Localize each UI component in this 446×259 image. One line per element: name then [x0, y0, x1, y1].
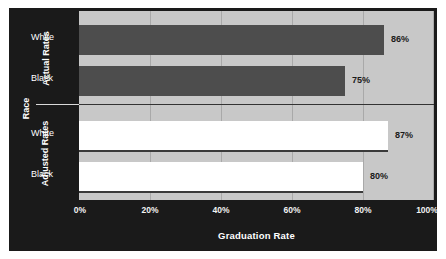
xtick-label-100: 100%	[416, 206, 438, 215]
bar-label-adjusted-white: 87%	[395, 131, 413, 140]
bar-label-actual-white: 86%	[391, 35, 409, 44]
xtick-label-80: 80%	[354, 206, 371, 215]
group-label-actual-rates: Actual Rates	[38, 12, 54, 104]
bar-label-adjusted-black: 80%	[370, 172, 388, 181]
bar-adjusted-black	[79, 162, 363, 193]
chart-container: Race Actual Rates Adjusted Rates White B…	[0, 0, 446, 259]
bar-label-actual-black: 75%	[352, 76, 370, 85]
group-divider	[79, 104, 434, 105]
category-label-adjusted-white: White	[31, 129, 79, 138]
bar-adjusted-white	[79, 121, 388, 152]
bar-actual-black	[79, 66, 345, 96]
y-axis-title-text: Race	[23, 97, 32, 119]
gridline-100	[433, 11, 434, 200]
x-axis-title: Graduation Rate	[79, 230, 434, 241]
figure-panel: Race Actual Rates Adjusted Rates White B…	[9, 8, 437, 251]
category-label-column: White Black White Black	[57, 11, 79, 200]
plot-area: 86% 75% 87% 80%	[79, 11, 434, 200]
xtick-label-60: 60%	[283, 206, 300, 215]
xtick-label-0: 0%	[74, 206, 86, 215]
group-label-adjusted-rates: Adjusted Rates	[38, 107, 54, 200]
xtick-label-40: 40%	[212, 206, 229, 215]
category-label-adjusted-black: Black	[31, 170, 79, 179]
category-label-actual-black: Black	[31, 74, 79, 83]
category-label-actual-white: White	[31, 33, 79, 42]
xtick-label-20: 20%	[141, 206, 158, 215]
bar-actual-white	[79, 25, 384, 55]
